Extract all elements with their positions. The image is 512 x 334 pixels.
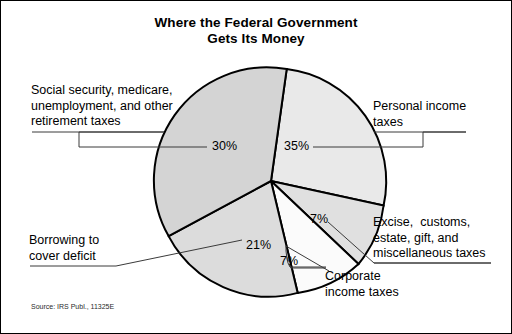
value-label-social-security: 30% (212, 139, 237, 153)
source-note: Source: IRS Publ., 11325E (31, 303, 114, 310)
value-label-corporate-income: 7% (280, 254, 298, 268)
value-label-personal-income: 35% (284, 139, 309, 153)
label-social-security: Social security, medicare, unemployment,… (31, 83, 173, 130)
label-borrowing: Borrowing to cover deficit (29, 233, 99, 264)
figure-panel: Where the Federal Government Gets Its Mo… (0, 0, 512, 334)
label-corporate-income: Corporate income taxes (325, 269, 399, 300)
label-personal-income: Personal income taxes (373, 99, 466, 130)
value-label-borrowing: 21% (246, 238, 271, 252)
pie-chart (1, 1, 512, 334)
value-label-excise: 7% (310, 212, 328, 226)
label-excise: Excise, customs, estate, gift, and misce… (373, 215, 486, 262)
